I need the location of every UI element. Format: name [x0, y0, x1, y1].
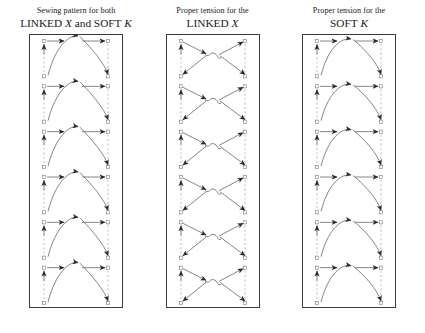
- stitch-node: [379, 221, 382, 224]
- stitch-node: [42, 75, 45, 78]
- stitch-node: [379, 266, 382, 269]
- stitch-node: [106, 85, 109, 88]
- thread-segment: [80, 218, 108, 256]
- stitch-node: [106, 120, 109, 123]
- stitch-node: [179, 301, 182, 304]
- thread-segment: [220, 146, 245, 165]
- thread-segment: [353, 85, 381, 120]
- stitch-node: [379, 175, 382, 178]
- stitch-node: [315, 130, 318, 133]
- stitch-node: [106, 301, 109, 304]
- panel-proper-tension-soft-k: Proper tension for the SOFT K: [285, 6, 413, 308]
- stitch-node: [179, 85, 182, 88]
- thread-segment: [48, 81, 78, 120]
- pattern-svg-arch: [30, 35, 122, 307]
- stitch-node: [179, 211, 182, 214]
- stitch-node: [243, 175, 246, 178]
- thread-segment: [80, 82, 108, 120]
- stitch-node: [179, 120, 182, 123]
- stitch-node: [106, 266, 109, 269]
- thread-segment: [219, 133, 243, 146]
- thread-segment: [183, 133, 206, 145]
- stitch-node: [243, 120, 246, 123]
- thread-segment: [183, 87, 206, 99]
- stitch-node: [243, 256, 246, 259]
- stitch-node: [106, 221, 109, 224]
- stitch-node: [42, 165, 45, 168]
- stitch-node: [379, 75, 382, 78]
- thread-segment: [219, 42, 243, 55]
- stitch-node: [243, 165, 246, 168]
- thread-segment: [80, 127, 108, 165]
- caption-line-1-bottom: LINKED X and SOFT K: [20, 17, 132, 30]
- thread-segment: [219, 87, 243, 100]
- thread-segment: [48, 127, 78, 166]
- stitch-node: [42, 120, 45, 123]
- interlock-curve: [205, 98, 221, 103]
- panel-box-3: [302, 34, 396, 308]
- thread-segment: [48, 36, 78, 75]
- stitch-node: [243, 221, 246, 224]
- thread-segment: [48, 172, 78, 211]
- stitch-node: [179, 175, 182, 178]
- panel-sewing-pattern-both: Sewing pattern for both LINKED X and SOF…: [12, 6, 140, 308]
- thread-segment: [80, 263, 108, 301]
- stitch-node: [243, 301, 246, 304]
- stitch-node: [315, 75, 318, 78]
- thread-segment: [183, 178, 206, 190]
- panel-proper-tension-linked-x: Proper tension for the LINKED X: [149, 6, 277, 308]
- stitch-node: [315, 165, 318, 168]
- thread-segment: [80, 37, 108, 75]
- thread-segment: [183, 237, 206, 256]
- caption-line-1-top: Sewing pattern for both: [20, 6, 132, 16]
- thread-segment: [353, 176, 381, 211]
- stitch-node: [106, 75, 109, 78]
- stitch-node: [106, 256, 109, 259]
- panel-caption-2: Proper tension for the LINKED X: [176, 6, 248, 30]
- caption-line-2-top: Proper tension for the: [176, 6, 248, 16]
- stitch-node: [42, 175, 45, 178]
- thread-segment: [353, 266, 381, 301]
- panel-box-1: [29, 34, 123, 308]
- thread-segment: [220, 56, 245, 75]
- thread-segment: [219, 178, 243, 191]
- thread-segment: [183, 146, 206, 165]
- thread-segment: [183, 223, 206, 235]
- stitch-node: [243, 211, 246, 214]
- stitch-node: [315, 120, 318, 123]
- stitch-node: [179, 266, 182, 269]
- stitch-node: [315, 256, 318, 259]
- stitch-node: [106, 211, 109, 214]
- stitch-node: [179, 165, 182, 168]
- thread-segment: [220, 101, 245, 120]
- caption-line-2-bottom: LINKED X: [176, 17, 248, 30]
- thread-segment: [321, 129, 351, 166]
- thread-segment: [183, 56, 206, 75]
- stitch-node: [243, 130, 246, 133]
- thread-segment: [353, 40, 381, 75]
- stitch-node: [379, 85, 382, 88]
- thread-segment: [183, 101, 206, 120]
- stitch-node: [243, 266, 246, 269]
- stitch-node: [243, 85, 246, 88]
- thread-segment: [183, 282, 206, 301]
- stitch-node: [106, 165, 109, 168]
- thread-segment: [183, 192, 206, 211]
- thread-segment: [219, 269, 243, 282]
- stitch-node: [315, 211, 318, 214]
- stitch-node: [42, 256, 45, 259]
- caption-line-3-top: Proper tension for the: [313, 6, 385, 16]
- pattern-svg-soft-arch: [303, 35, 395, 307]
- panel-caption-3: Proper tension for the SOFT K: [313, 6, 385, 30]
- stitch-node: [42, 211, 45, 214]
- stitch-node: [179, 221, 182, 224]
- interlock-curve: [205, 144, 221, 149]
- stitch-node: [243, 39, 246, 42]
- stitch-node: [379, 256, 382, 259]
- thread-segment: [219, 223, 243, 236]
- stitch-node: [379, 39, 382, 42]
- stitch-node: [315, 175, 318, 178]
- stitch-node: [179, 256, 182, 259]
- stitch-node: [379, 130, 382, 133]
- stitch-node: [315, 85, 318, 88]
